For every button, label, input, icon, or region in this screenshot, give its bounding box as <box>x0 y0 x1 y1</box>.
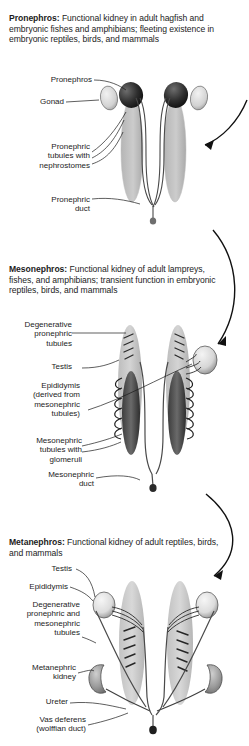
vas-deferens-art <box>96 611 214 728</box>
testis-left-metanephros <box>93 592 115 618</box>
figure-root: Pronephros: Functional kidney in adult h… <box>0 0 249 746</box>
metanephric-kidney-left <box>89 665 106 694</box>
metanephros-left-pale <box>119 581 145 705</box>
metanephric-kidney-right <box>205 665 222 694</box>
metanephros-right-pale <box>167 581 193 705</box>
testis-right-metanephros <box>196 592 218 618</box>
label-metanephric-kidney: Metanephric kidney <box>4 663 76 682</box>
label-testis-metanephros: Testis <box>26 564 72 573</box>
label-degenerative-tubules-metanephros: Degenerative pronephric and mesonephric … <box>2 600 80 638</box>
label-ureter: Ureter <box>22 697 68 706</box>
cloaca-metanephros <box>149 726 157 734</box>
panel-metanephros: Metanephros: Functional kidney of adult … <box>0 515 249 746</box>
label-epididymis-metanephros: Epididymis <box>6 582 68 591</box>
label-vas-deferens: Vas deferens (wolffian duct) <box>8 715 86 734</box>
